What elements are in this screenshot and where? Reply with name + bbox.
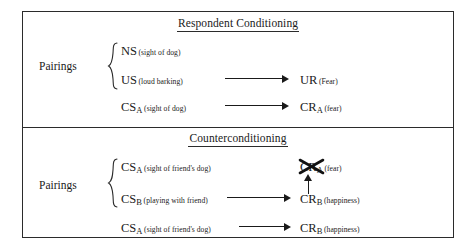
- term-cs-a-counter-top-symbol: CS: [121, 160, 136, 174]
- panel-respondent-conditioning: Respondent Conditioning Pairings NS(sigh…: [23, 12, 453, 128]
- term-cs-a-counter-bottom-descriptor: (sight of friend's dog): [144, 225, 211, 234]
- term-cr-b-counter-symbol: CR: [300, 192, 317, 206]
- term-cs-a-counter-bottom-subscript: A: [136, 226, 142, 236]
- brace-counter: [107, 158, 119, 208]
- arrow-us-to-ur: [225, 74, 289, 83]
- term-cr-a-crossed-descriptor: (fear): [324, 164, 341, 173]
- term-cr-b-counter-descriptor: (happiness): [324, 196, 360, 205]
- term-cr-b-counter-bottom-descriptor: (happiness): [324, 225, 360, 234]
- term-cs-a-respondent-subscript: A: [136, 105, 142, 115]
- term-cr-a-crossed-out: CRA(fear): [300, 161, 342, 174]
- term-cs-b-counter-subscript: B: [136, 197, 142, 207]
- panel-title-counter-text: Counterconditioning: [188, 132, 287, 147]
- term-ur-symbol: UR: [300, 73, 317, 87]
- term-cr-a-respondent: CRA(fear): [300, 101, 342, 114]
- panel-title-respondent: Respondent Conditioning: [23, 17, 453, 32]
- term-cs-a-respondent: CSA(sight of dog): [121, 101, 186, 114]
- term-ns-symbol: NS: [121, 44, 137, 58]
- term-cs-b-counter-symbol: CS: [121, 192, 136, 206]
- term-cs-a-respondent-symbol: CS: [121, 100, 136, 114]
- term-cs-a-counter-bottom: CSA(sight of friend's dog): [121, 222, 211, 235]
- panel-title-respondent-text: Respondent Conditioning: [177, 17, 299, 32]
- term-cr-b-counter-bottom: CRB(happiness): [300, 222, 360, 235]
- pairings-label-counter: Pairings: [39, 179, 77, 191]
- brace-respondent: [107, 42, 119, 90]
- term-cs-b-counter: CSB(playing with friend): [121, 193, 208, 206]
- panel-counterconditioning: Counterconditioning Pairings CSA(sight o…: [23, 128, 453, 239]
- term-cs-a-counter-top: CSA(sight of friend's dog): [121, 161, 211, 174]
- term-cr-a-crossed-symbol: CR: [300, 160, 317, 174]
- term-cr-b-counter-bottom-subscript: B: [317, 226, 323, 236]
- term-us-descriptor: (loud barking): [138, 77, 182, 86]
- term-ur-descriptor: (Fear): [319, 77, 338, 86]
- term-ns-descriptor: (sight of dog): [138, 48, 180, 57]
- term-us: US(loud barking): [121, 74, 183, 87]
- arrow-csa-to-cra: [225, 101, 289, 110]
- term-cr-b-counter: CRB(happiness): [300, 193, 360, 206]
- term-cs-a-counter-top-subscript: A: [136, 165, 142, 175]
- arrow-csb-to-crb: [227, 193, 291, 202]
- term-cr-a-respondent-symbol: CR: [300, 100, 317, 114]
- term-cs-a-respondent-descriptor: (sight of dog): [144, 104, 186, 113]
- term-cr-a-crossed-subscript: A: [317, 165, 323, 175]
- conditioning-diagram-frame: Respondent Conditioning Pairings NS(sigh…: [22, 11, 454, 238]
- term-ns: NS(sight of dog): [121, 45, 181, 58]
- term-cr-a-respondent-descriptor: (fear): [324, 104, 341, 113]
- term-cr-b-counter-subscript: B: [317, 197, 323, 207]
- term-ur: UR(Fear): [300, 74, 338, 87]
- panel-title-counter: Counterconditioning: [23, 132, 453, 147]
- term-cr-a-respondent-subscript: A: [317, 105, 323, 115]
- arrow-csa-to-crb-bottom: [239, 222, 291, 231]
- arrow-crb-suppresses-cra: [304, 174, 313, 194]
- term-cs-a-counter-top-descriptor: (sight of friend's dog): [144, 164, 211, 173]
- term-us-symbol: US: [121, 73, 137, 87]
- term-cs-a-counter-bottom-symbol: CS: [121, 221, 136, 235]
- pairings-label-respondent: Pairings: [39, 60, 77, 72]
- term-cr-b-counter-bottom-symbol: CR: [300, 221, 317, 235]
- term-cs-b-counter-descriptor: (playing with friend): [144, 196, 208, 205]
